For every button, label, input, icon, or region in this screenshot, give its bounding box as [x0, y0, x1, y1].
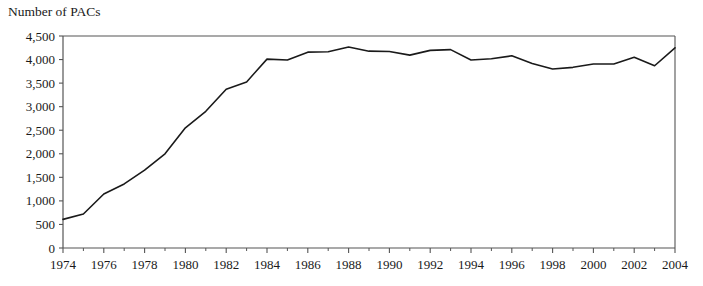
x-tick-label: 2002 — [621, 257, 647, 272]
series-line-number-of-pacs — [63, 47, 675, 219]
y-tick-label: 1,500 — [26, 170, 55, 185]
x-tick-label: 1976 — [91, 257, 118, 272]
y-tick-label: 2,000 — [26, 146, 55, 161]
x-tick-label: 1988 — [336, 257, 362, 272]
x-tick-label: 1978 — [132, 257, 158, 272]
y-tick-label: 1,000 — [26, 193, 55, 208]
x-tick-label: 1984 — [254, 257, 281, 272]
x-tick-label: 1990 — [376, 257, 402, 272]
x-tick-label: 1994 — [458, 257, 485, 272]
y-tick-label: 4,500 — [26, 29, 55, 44]
x-axis-tick-labels: 1974197619781980198219841986198819901992… — [50, 257, 689, 272]
line-chart-plot: 05001,0001,5002,0002,5003,0003,5004,0004… — [0, 0, 703, 286]
y-tick-label: 3,000 — [26, 99, 55, 114]
y-tick-label: 3,500 — [26, 76, 55, 91]
x-tick-label: 1982 — [213, 257, 239, 272]
x-tick-label: 2000 — [580, 257, 606, 272]
y-tick-label: 500 — [36, 217, 56, 232]
y-tick-label: 4,000 — [26, 52, 55, 67]
x-tick-label: 1980 — [172, 257, 198, 272]
plot-frame — [63, 36, 675, 248]
x-tick-label: 2004 — [662, 257, 689, 272]
x-tick-label: 1998 — [540, 257, 566, 272]
x-tick-label: 1992 — [417, 257, 443, 272]
y-tick-label: 0 — [49, 241, 56, 256]
chart-figure: Number of PACs 05001,0001,5002,0002,5003… — [0, 0, 703, 286]
y-tick-label: 2,500 — [26, 123, 55, 138]
y-axis-tick-labels: 05001,0001,5002,0002,5003,0003,5004,0004… — [26, 29, 55, 256]
x-tick-label: 1974 — [50, 257, 77, 272]
x-tick-label: 1996 — [499, 257, 526, 272]
x-tick-label: 1986 — [295, 257, 322, 272]
